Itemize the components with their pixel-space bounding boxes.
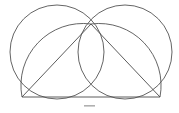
geometry-diagram	[0, 0, 179, 113]
left-triangle-side	[22, 24, 91, 97]
left-circle	[10, 5, 104, 99]
caption-dash	[84, 105, 95, 107]
right-triangle-side	[91, 24, 160, 97]
right-circle	[78, 5, 172, 99]
figure-canvas	[0, 0, 179, 113]
